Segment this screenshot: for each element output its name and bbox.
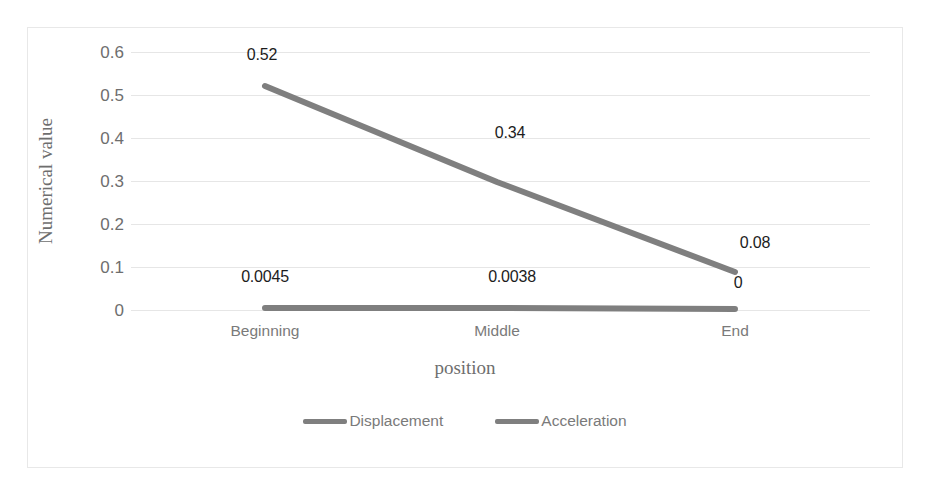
x-category-label-end: End	[721, 322, 749, 340]
legend-item-displacement[interactable]: Displacement	[303, 412, 443, 430]
data-label-acceleration-beginning: 0.0045	[241, 268, 289, 286]
x-category-label-middle: Middle	[474, 322, 520, 340]
x-axis-title: position	[434, 357, 495, 379]
legend-label-acceleration: Acceleration	[541, 412, 626, 430]
legend-label-displacement: Displacement	[349, 412, 443, 430]
series-line-displacement	[265, 86, 735, 272]
chart-screenshot: 0.6 0.5 0.4 0.3 0.2 0.1 0 Numerical valu…	[0, 0, 930, 498]
data-label-displacement-end: 0.08	[740, 234, 770, 252]
x-category-label-beginning: Beginning	[231, 322, 300, 340]
legend-line-swatch-icon	[495, 419, 539, 424]
data-label-displacement-middle: 0.34	[495, 124, 525, 142]
series-line-acceleration	[265, 308, 735, 309]
legend-item-acceleration[interactable]: Acceleration	[495, 412, 626, 430]
chart-legend: Displacement Acceleration	[0, 412, 930, 430]
data-label-acceleration-middle: 0.0038	[488, 268, 536, 286]
legend-line-swatch-icon	[303, 419, 347, 424]
data-label-displacement-beginning: 0.52	[247, 46, 277, 64]
data-label-acceleration-end: 0	[734, 274, 743, 292]
